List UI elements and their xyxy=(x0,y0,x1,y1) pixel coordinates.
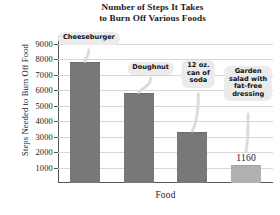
y-tick-label: 6000 xyxy=(35,86,53,95)
chart-title: Number of Steps It Takes to Burn Off Var… xyxy=(60,2,245,24)
y-tick-mark xyxy=(54,59,58,60)
y-tick-mark xyxy=(54,44,58,45)
callout-line: Cheeseburger xyxy=(63,34,115,42)
y-tick-label: 5000 xyxy=(35,101,53,110)
y-tick-label: 9000 xyxy=(35,39,53,48)
bar xyxy=(70,62,100,183)
y-tick-label: 8000 xyxy=(35,55,53,64)
y-tick-mark xyxy=(54,106,58,107)
callout-cheeseburger: Cheeseburger xyxy=(58,32,120,45)
callout-line: soda xyxy=(187,77,210,85)
y-tick-label: 4000 xyxy=(35,117,53,126)
chart-title-line-2: to Burn Off Various Foods xyxy=(60,13,245,24)
y-tick-mark xyxy=(54,75,58,76)
y-axis-title: Steps Needed to Burn Off Food xyxy=(20,25,30,175)
x-axis-title: Food xyxy=(58,190,273,200)
callout-doughnut: Doughnut xyxy=(127,62,174,75)
gridline xyxy=(58,59,273,60)
y-tick-label: 1000 xyxy=(35,163,53,172)
y-tick-mark xyxy=(54,168,58,169)
y-tick-mark xyxy=(54,90,58,91)
y-tick-label: 7000 xyxy=(35,70,53,79)
y-tick-mark xyxy=(54,152,58,153)
bar xyxy=(231,165,261,183)
y-tick-mark xyxy=(54,137,58,138)
callout-salad: Gardensalad withfat-freedressing xyxy=(224,66,272,101)
callout-line: Doughnut xyxy=(132,64,169,72)
callout-line: dressing xyxy=(229,91,267,99)
bar xyxy=(177,132,207,183)
chart-title-line-1: Number of Steps It Takes xyxy=(60,2,245,13)
y-tick-label: 2000 xyxy=(35,148,53,157)
callout-soda: 12 oz.can ofsoda xyxy=(182,60,215,88)
bar-chart-figure: Number of Steps It Takes to Burn Off Var… xyxy=(0,0,280,215)
plot-area: 100020003000400050006000700080009000 116… xyxy=(58,36,273,183)
bar-value-label: 1160 xyxy=(236,152,256,163)
y-tick-mark xyxy=(54,121,58,122)
y-tick-label: 3000 xyxy=(35,132,53,141)
bar xyxy=(124,93,154,183)
